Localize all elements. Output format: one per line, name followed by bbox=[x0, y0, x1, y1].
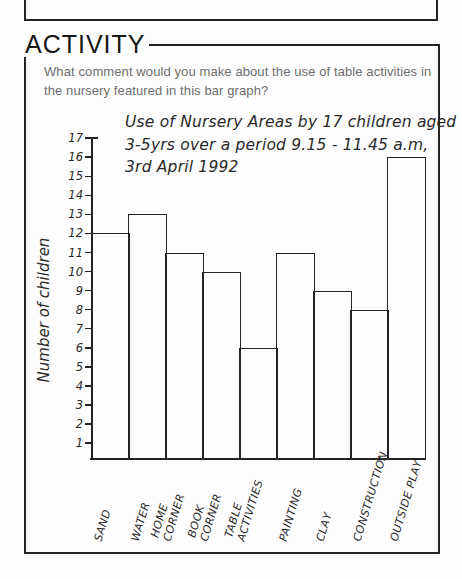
x-label-painting: PAINTING bbox=[277, 487, 306, 543]
y-tick-label-16: 16 bbox=[57, 150, 83, 164]
bar-book-corner bbox=[202, 272, 241, 460]
y-tick-label-9: 9 bbox=[57, 284, 83, 298]
bar-water bbox=[128, 214, 167, 459]
bar-painting bbox=[276, 253, 315, 460]
y-tick-label-6: 6 bbox=[57, 341, 83, 355]
bar-chart: Use of Nursery Areas by 17 children aged… bbox=[0, 0, 462, 579]
y-tick-label-10: 10 bbox=[57, 265, 83, 279]
y-tick-15 bbox=[85, 176, 91, 178]
bar-table-activities bbox=[239, 348, 278, 460]
y-axis-label: Number of children bbox=[35, 210, 53, 410]
y-tick-label-15: 15 bbox=[57, 169, 83, 183]
y-tick-label-17: 17 bbox=[57, 131, 83, 145]
x-label-sand: SAND bbox=[92, 508, 114, 543]
y-axis-top-cap bbox=[91, 137, 98, 139]
x-label-table-activities: TABLEACTIVITIES bbox=[222, 474, 266, 543]
y-tick-label-8: 8 bbox=[57, 303, 83, 317]
bar-clay bbox=[313, 291, 352, 460]
chart-title-line-2: 3-5yrs over a period 9.15 - 11.45 a.m, bbox=[125, 134, 456, 157]
x-label-construction: CONSTRUCTION bbox=[351, 450, 391, 543]
chart-title-line-1: Use of Nursery Areas by 17 children aged bbox=[125, 111, 456, 134]
y-tick-16 bbox=[85, 156, 91, 158]
bar-sand bbox=[91, 233, 130, 459]
bar-construction bbox=[350, 310, 389, 460]
y-tick-label-11: 11 bbox=[57, 246, 83, 260]
bar-outside-play bbox=[387, 157, 426, 460]
y-tick-label-3: 3 bbox=[57, 398, 83, 412]
x-label-water: WATER bbox=[129, 501, 153, 543]
y-tick-14 bbox=[85, 195, 91, 197]
x-label-book-corner: BOOKCORNER bbox=[185, 488, 224, 543]
y-tick-label-1: 1 bbox=[57, 436, 83, 450]
y-tick-label-13: 13 bbox=[57, 207, 83, 221]
x-label-outside-play: OUTSIDE PLAY bbox=[388, 458, 425, 543]
x-label-clay: CLAY bbox=[314, 511, 335, 543]
y-tick-label-12: 12 bbox=[57, 226, 83, 240]
y-tick-17 bbox=[85, 137, 91, 139]
y-tick-label-14: 14 bbox=[57, 188, 83, 202]
y-tick-label-4: 4 bbox=[57, 379, 83, 393]
y-tick-label-2: 2 bbox=[57, 417, 83, 431]
bar-home-corner bbox=[165, 253, 204, 460]
y-tick-label-5: 5 bbox=[57, 360, 83, 374]
y-tick-13 bbox=[85, 214, 91, 216]
y-tick-label-7: 7 bbox=[57, 322, 83, 336]
book-page: ACTIVITY What comment would you make abo… bbox=[0, 0, 462, 579]
x-label-home-corner: HOMECORNER bbox=[148, 488, 187, 543]
